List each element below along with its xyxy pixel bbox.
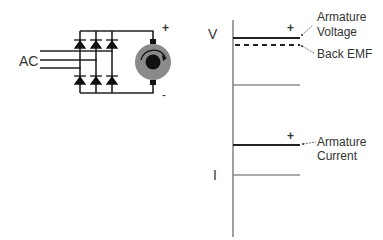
- positive-terminal-label: +: [162, 21, 169, 35]
- diagram-canvas: AC + - V I + + Armature Voltage Back EMF…: [0, 0, 383, 240]
- armature-voltage-label-line1: Armature: [317, 10, 367, 24]
- voltage-plus-label: +: [287, 21, 294, 35]
- i-axis-label: I: [213, 167, 217, 183]
- v-axis-label: V: [208, 26, 218, 42]
- armature-voltage-label-line2: Voltage: [317, 25, 357, 39]
- diodes-upper: [74, 40, 118, 48]
- voltage-leader-line: [302, 25, 313, 35]
- armature-current-label-line1: Armature: [317, 135, 367, 149]
- diodes-lower: [74, 76, 118, 84]
- negative-terminal-label: -: [162, 88, 166, 102]
- diode-icon: [107, 41, 117, 48]
- back-emf-leader-line: [302, 46, 314, 53]
- back-emf-label: Back EMF: [317, 47, 372, 61]
- current-plus-label: +: [287, 129, 294, 143]
- armature-current-label-line2: Current: [317, 149, 358, 163]
- diode-icon: [91, 41, 101, 48]
- dc-motor-icon: [135, 39, 171, 85]
- motor-rotor: [146, 55, 161, 70]
- diode-icon: [91, 77, 101, 84]
- ac-label: AC: [19, 53, 38, 69]
- diode-icon: [107, 77, 117, 84]
- waveform-plot: V I + + Armature Voltage Back EMF Armatu…: [208, 10, 372, 237]
- current-leader-line: [303, 142, 316, 144]
- diode-icon: [75, 77, 85, 84]
- diode-icon: [75, 41, 85, 48]
